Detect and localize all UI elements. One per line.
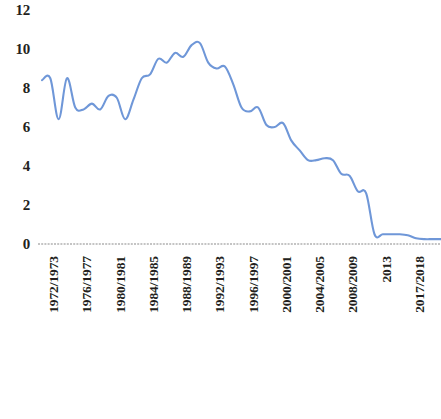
x-tick-label: 2004/2005 (313, 256, 327, 313)
x-tick-label: 1972/1973 (47, 256, 61, 313)
series-line (42, 42, 441, 239)
x-tick-label: 2013 (380, 256, 394, 283)
x-tick-label: 2008/2009 (346, 256, 360, 313)
x-tick-label: 1988/1989 (180, 256, 194, 313)
line-chart: 12 10 8 6 4 2 0 1972/19731976/19771980/1… (0, 0, 441, 419)
x-tick-label: 1984/1985 (147, 256, 161, 313)
x-tick-label: 1980/1981 (114, 256, 128, 313)
x-tick-label: 2017/2018 (413, 256, 427, 313)
series-canvas (0, 0, 441, 260)
plot-area (0, 0, 441, 260)
x-tick-label: 2000/2001 (280, 256, 294, 313)
x-tick-label: 1976/1977 (80, 256, 94, 313)
x-tick-label: 1992/1993 (213, 256, 227, 313)
x-tick-label: 1996/1997 (247, 256, 261, 313)
x-axis: 1972/19731976/19771980/19811984/19851988… (0, 248, 441, 419)
